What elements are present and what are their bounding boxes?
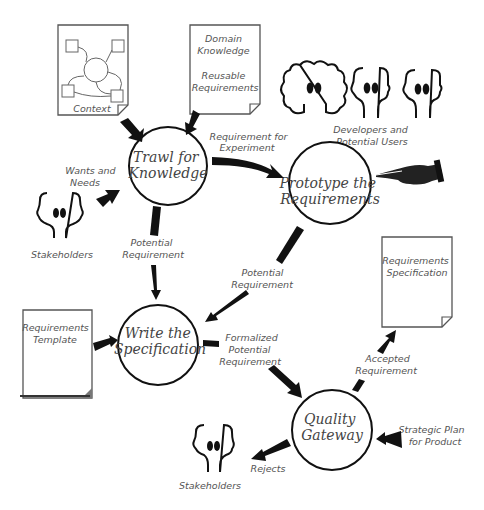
stakeholders-actor-top: Stakeholders <box>31 193 93 260</box>
eye-icon <box>60 208 66 218</box>
stakeholders-actor-bottom: Stakeholders <box>179 425 241 491</box>
diagram-canvas: Context Domain Knowledge Reusable Requir… <box>0 0 484 510</box>
flow-label-accepted-requirement: Accepted Requirement <box>355 353 418 376</box>
write-label: Write the Specification <box>114 325 206 357</box>
stakeholders-top-label: Stakeholders <box>31 249 93 260</box>
context-label: Context <box>73 103 112 114</box>
eye-icon <box>53 208 59 218</box>
gateway-label: Quality Gateway <box>301 411 364 443</box>
arrow-gateway-to-spec-bottom <box>352 379 365 392</box>
arrow-prototype-to-write-bottom <box>205 290 249 322</box>
hairy-face <box>281 61 347 113</box>
requirements-specification-document: Requirements Specification <box>382 237 452 327</box>
flow-label-strategic-plan: Strategic Plan for Product <box>398 424 467 447</box>
stakeholders-bottom-label: Stakeholders <box>179 480 241 491</box>
arrow-trawl-to-prototype <box>212 157 284 178</box>
arrow-stakeholders-to-trawl <box>96 190 120 207</box>
arrow-gateway-to-stakeholders <box>251 439 291 461</box>
eye-icon <box>207 441 213 451</box>
flow-label-potential-requirement-1: Potential Requirement <box>122 237 185 260</box>
process-quality-gateway: Quality Gateway <box>292 390 372 470</box>
arrow-trawl-to-write-bottom <box>151 265 161 300</box>
pointing-hand-icon <box>376 160 444 185</box>
specification-label: Requirements Specification <box>382 255 452 278</box>
flow-label-requirement-for-experiment: Requirement for Experiment <box>210 131 291 153</box>
process-write-specification: Write the Specification <box>114 305 206 385</box>
arrow-strategic-to-gateway <box>376 431 402 448</box>
flow-label-wants-needs: Wants and Needs <box>65 165 118 188</box>
flow-label-rejects: Rejects <box>251 463 286 474</box>
flow-label-formalized-potential-requirement: Formalized Potential Requirement <box>219 332 282 367</box>
developers-label: Developers and Potential Users <box>333 124 411 147</box>
arrow-write-to-gateway-bottom <box>268 365 302 398</box>
prototype-label: Prototype the Requirements <box>278 175 380 207</box>
arrow-trawl-to-write-top <box>150 206 161 236</box>
domain-knowledge-document: Domain Knowledge Reusable Requirements <box>190 25 260 114</box>
eye-icon <box>214 441 220 451</box>
process-prototype-requirements: Prototype the Requirements <box>278 142 380 224</box>
arrow-gateway-to-spec-top <box>377 330 396 354</box>
requirements-process-diagram: Context Domain Knowledge Reusable Requir… <box>0 0 484 510</box>
arrow-context-to-trawl <box>120 118 144 142</box>
requirements-template-document: Requirements Template <box>20 310 92 398</box>
flow-label-potential-requirement-2: Potential Requirement <box>231 267 294 290</box>
arrow-domain-to-trawl <box>185 110 200 135</box>
arrow-prototype-to-write-top <box>276 226 304 264</box>
context-document: Context <box>58 25 128 115</box>
arrow-write-to-gateway-top <box>203 340 219 347</box>
developers-actor-group: Developers and Potential Users <box>281 61 442 147</box>
trawl-label: Trawl for Knowledge <box>128 149 208 181</box>
